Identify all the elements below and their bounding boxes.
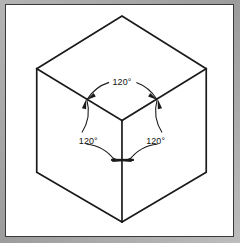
arc-angle-left: [82, 100, 115, 161]
arc-angle-left-lower-segment: [86, 144, 115, 161]
angle-label-top: 120°: [113, 77, 132, 87]
figure-frame: 120° 120° 120° Isometric cube axis angle…: [0, 0, 240, 243]
arrowhead-left-upper: [82, 99, 86, 109]
angle-label-left: 120°: [79, 136, 98, 146]
edge-center-to-right: [122, 69, 206, 121]
cube-internal-edges: [37, 69, 207, 222]
isometric-cube-diagram: 120° 120° 120°: [6, 5, 233, 236]
angle-label-right: 120°: [146, 136, 165, 146]
arc-angle-right-lower-segment: [129, 144, 158, 161]
drawing-area: 120° 120° 120° Isometric cube axis angle…: [5, 4, 234, 237]
arc-angle-right: [129, 100, 162, 161]
edge-center-to-left: [37, 69, 122, 121]
arrowhead-right-upper: [158, 99, 162, 109]
